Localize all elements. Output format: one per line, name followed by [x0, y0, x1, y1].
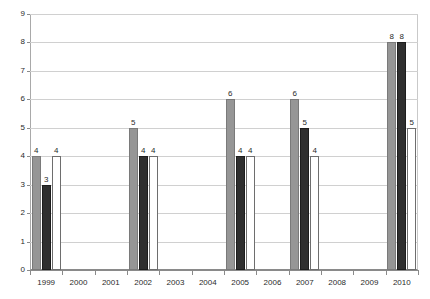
x-tick-mark — [256, 270, 257, 275]
bar-group — [323, 14, 352, 270]
category-column-2006: 2006 — [256, 14, 288, 270]
x-tick-mark — [192, 270, 193, 275]
x-tick-mark — [127, 270, 128, 275]
bar-series-2-2007[interactable]: 5 — [300, 128, 309, 270]
x-axis-tick-label: 1999 — [37, 279, 55, 287]
x-tick-mark — [224, 270, 225, 275]
y-axis-tick-label: 6 — [21, 95, 25, 103]
bar-group: 544 — [129, 14, 158, 270]
category-column-2007: 6542007 — [289, 14, 321, 270]
x-tick-mark-end — [418, 270, 419, 275]
x-axis-tick-label: 2007 — [296, 279, 314, 287]
category-column-2009: 2009 — [353, 14, 385, 270]
y-axis-tick-label: 4 — [21, 152, 25, 160]
x-axis-tick-label: 2000 — [70, 279, 88, 287]
bar-value-label: 4 — [238, 147, 242, 155]
bar-value-label: 5 — [131, 119, 135, 127]
x-axis-tick-label: 2008 — [328, 279, 346, 287]
category-column-2004: 2004 — [192, 14, 224, 270]
bar-value-label: 4 — [248, 147, 252, 155]
category-column-2008: 2008 — [321, 14, 353, 270]
category-column-2005: 6442005 — [224, 14, 256, 270]
bar-group — [355, 14, 384, 270]
bar-series-3-2002[interactable]: 4 — [149, 156, 158, 270]
x-tick-mark — [321, 270, 322, 275]
bar-series-2-2002[interactable]: 4 — [139, 156, 148, 270]
bar-value-label: 8 — [390, 33, 394, 41]
bar-value-label: 6 — [293, 90, 297, 98]
y-axis-tick-label: 8 — [21, 38, 25, 46]
y-axis-tick-label: 5 — [21, 124, 25, 132]
bar-series-1-1999[interactable]: 4 — [32, 156, 41, 270]
bar-series-1-2007[interactable]: 6 — [290, 99, 299, 270]
plot-area: 0123456789 43419992000200154420022003200… — [30, 14, 418, 270]
bar-group: 654 — [290, 14, 319, 270]
x-axis-tick-label: 2003 — [167, 279, 185, 287]
category-column-2001: 2001 — [95, 14, 127, 270]
x-tick-mark — [95, 270, 96, 275]
x-axis-tick-label: 2002 — [134, 279, 152, 287]
x-axis-tick-label: 2010 — [393, 279, 411, 287]
category-column-2000: 2000 — [62, 14, 94, 270]
category-column-2010: 8852010 — [386, 14, 418, 270]
y-axis-tick-label: 0 — [21, 266, 25, 274]
y-axis-tick-label: 1 — [21, 238, 25, 246]
y-axis-tick-label: 2 — [21, 209, 25, 217]
bar-series-3-2010[interactable]: 5 — [407, 128, 416, 270]
x-axis-tick-label: 2009 — [361, 279, 379, 287]
bar-group — [96, 14, 125, 270]
y-axis-tick-label: 3 — [21, 181, 25, 189]
bar-series-2-2010[interactable]: 8 — [397, 42, 406, 270]
bar-series-1-2010[interactable]: 8 — [387, 42, 396, 270]
x-tick-mark — [30, 270, 31, 275]
bar-series-3-2007[interactable]: 4 — [310, 156, 319, 270]
bar-group — [258, 14, 287, 270]
bar-group — [64, 14, 93, 270]
bar-series-2-1999[interactable]: 3 — [42, 185, 51, 270]
x-tick-mark — [62, 270, 63, 275]
bar-group: 885 — [387, 14, 416, 270]
y-axis-tick-label: 7 — [21, 67, 25, 75]
bar-series-2-2005[interactable]: 4 — [236, 156, 245, 270]
bar-group: 434 — [32, 14, 61, 270]
x-axis-tick-label: 2006 — [264, 279, 282, 287]
bar-value-label: 8 — [400, 33, 404, 41]
bar-series-3-2005[interactable]: 4 — [246, 156, 255, 270]
category-column-2002: 5442002 — [127, 14, 159, 270]
bar-value-label: 4 — [151, 147, 155, 155]
x-axis-tick-label: 2001 — [102, 279, 120, 287]
x-tick-mark — [159, 270, 160, 275]
bar-value-label: 5 — [410, 119, 414, 127]
bar-value-label: 6 — [228, 90, 232, 98]
bar-chart: 0123456789 43419992000200154420022003200… — [0, 0, 430, 299]
category-column-1999: 4341999 — [30, 14, 62, 270]
bar-series-3-1999[interactable]: 4 — [52, 156, 61, 270]
category-column-2003: 2003 — [159, 14, 191, 270]
bar-group — [193, 14, 222, 270]
bar-value-label: 4 — [141, 147, 145, 155]
y-axis-tick-label: 9 — [21, 10, 25, 18]
bar-series-1-2005[interactable]: 6 — [226, 99, 235, 270]
bar-value-label: 5 — [303, 119, 307, 127]
bar-group — [161, 14, 190, 270]
bar-value-label: 3 — [44, 176, 48, 184]
x-axis-tick-label: 2005 — [231, 279, 249, 287]
x-tick-mark — [386, 270, 387, 275]
x-tick-mark — [289, 270, 290, 275]
bar-series-1-2002[interactable]: 5 — [129, 128, 138, 270]
bar-value-label: 4 — [313, 147, 317, 155]
x-tick-mark — [353, 270, 354, 275]
x-axis-tick-label: 2004 — [199, 279, 217, 287]
bar-group: 644 — [226, 14, 255, 270]
bar-value-label: 4 — [34, 147, 38, 155]
bar-value-label: 4 — [54, 147, 58, 155]
